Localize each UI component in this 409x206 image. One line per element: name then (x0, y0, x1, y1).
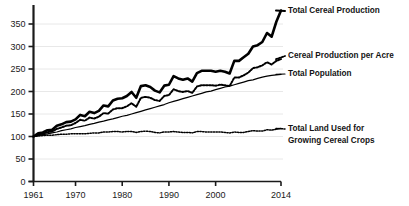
y-tick-label: 300 (10, 42, 25, 52)
legend-item-0: Total Cereal Production (288, 6, 380, 15)
series-lines (34, 11, 282, 137)
y-tick-label: 200 (10, 87, 25, 97)
legend-connector-3 (276, 128, 285, 129)
y-tick-label: 100 (10, 132, 25, 142)
legend-label: Growing Cereal Crops (288, 136, 375, 145)
legend-item-3: Total Land Used forGrowing Cereal Crops (288, 124, 375, 145)
series-line-1 (34, 59, 282, 136)
legend-label: Total Cereal Production (288, 6, 380, 15)
series-line-2 (34, 74, 282, 136)
legend-label: Total Population (288, 69, 352, 78)
y-tick-label: 350 (10, 19, 25, 29)
y-axis (29, 5, 34, 182)
x-axis (29, 182, 282, 187)
x-tick-label: 2000 (206, 190, 226, 200)
x-tick-label: 1980 (112, 190, 132, 200)
y-tick-labels: 050100150200250300350 (10, 19, 25, 187)
legend: Total Cereal ProductionCereal Production… (276, 6, 394, 145)
legend-item-1: Cereal Production per Acre (288, 51, 394, 60)
y-tick-label: 250 (10, 64, 25, 74)
legend-item-2: Total Population (288, 69, 352, 78)
series-line-3 (34, 128, 282, 136)
y-tick-label: 50 (15, 154, 25, 164)
series-line-0 (34, 11, 282, 137)
x-tick-label: 2014 (271, 190, 291, 200)
legend-label: Cereal Production per Acre (288, 51, 394, 60)
chart-plot-area: 050100150200250300350 196119701980199020… (0, 0, 409, 206)
y-tick-label: 150 (10, 109, 25, 119)
legend-connector-0 (276, 11, 285, 12)
x-tick-label: 1970 (66, 190, 86, 200)
x-tick-label: 1990 (159, 190, 179, 200)
cereal-production-index-chart: 050100150200250300350 196119701980199020… (0, 0, 409, 206)
x-tick-labels: 196119701980199020002014 (23, 190, 291, 200)
x-tick-label: 1961 (23, 190, 43, 200)
legend-label: Total Land Used for (288, 124, 365, 133)
y-tick-label: 0 (20, 177, 25, 187)
